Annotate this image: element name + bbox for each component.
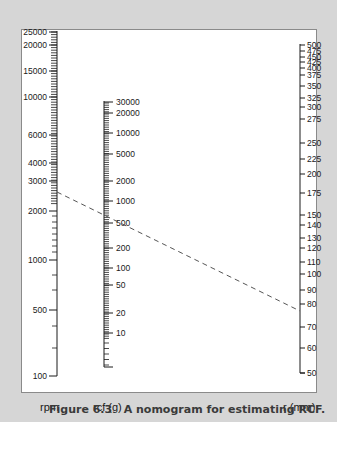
rcf-tick-label: 500 <box>116 218 130 228</box>
r-tick-label: 200 <box>307 169 321 179</box>
rpm-tick-label: 1000 <box>28 255 47 265</box>
rcf-tick-label: 200 <box>116 243 130 253</box>
rcf-tick-label: 30000 <box>116 97 140 107</box>
rpm-tick-label: 20000 <box>23 40 47 50</box>
rcf-tick-label: 100 <box>116 263 130 273</box>
r-tick-label: 225 <box>307 154 321 164</box>
rpm-tick-label: 500 <box>33 305 47 315</box>
rcf-tick-label: 10000 <box>116 128 140 138</box>
r-tick-label: 70 <box>307 322 317 332</box>
r-tick-label: 130 <box>307 233 321 243</box>
rcf-tick-label: 2000 <box>116 176 135 186</box>
r-tick-label: 80 <box>307 299 317 309</box>
rpm-axis: 2500020000150001000060004000300020001000… <box>23 27 57 381</box>
rcf-tick-label: 20000 <box>116 108 140 118</box>
r-tick-label: 175 <box>307 188 321 198</box>
r-tick-label: 50 <box>307 368 317 378</box>
rpm-tick-label: 10000 <box>23 92 47 102</box>
r-tick-label: 60 <box>307 343 317 353</box>
example-dashed-line <box>57 192 300 311</box>
r-tick-label: 110 <box>307 257 321 267</box>
r-tick-label: 150 <box>307 210 321 220</box>
r-tick-label: 100 <box>307 269 321 279</box>
r-tick-label: 375 <box>307 70 321 80</box>
figure-caption: Figure 6.3 A nomogram for estimating RCF… <box>49 403 325 416</box>
rcf-tick-label: 5000 <box>116 149 135 159</box>
r-tick-label: 120 <box>307 243 321 253</box>
r-tick-label: 140 <box>307 220 321 230</box>
rpm-tick-label: 6000 <box>28 130 47 140</box>
rpm-tick-label: 15000 <box>23 66 47 76</box>
rcf-axis: 3000020000100005000200010005002001005020… <box>104 97 140 367</box>
rpm-tick-label: 25000 <box>23 27 47 37</box>
rpm-tick-label: 2000 <box>28 206 47 216</box>
rcf-tick-label: 1000 <box>116 196 135 206</box>
r-axis: 5004754504254003753503253002752502252001… <box>300 40 321 378</box>
r-tick-label: 90 <box>307 285 317 295</box>
rcf-tick-label: 50 <box>116 280 126 290</box>
r-tick-label: 275 <box>307 114 321 124</box>
rcf-tick-label: 10 <box>116 328 126 338</box>
rcf-tick-label: 20 <box>116 308 126 318</box>
rpm-tick-label: 100 <box>33 371 47 381</box>
r-tick-label: 300 <box>307 102 321 112</box>
r-tick-label: 250 <box>307 138 321 148</box>
rpm-tick-label: 3000 <box>28 176 47 186</box>
nomogram: 2500020000150001000060004000300020001000… <box>0 0 337 455</box>
rpm-tick-label: 4000 <box>28 158 47 168</box>
r-tick-label: 350 <box>307 81 321 91</box>
